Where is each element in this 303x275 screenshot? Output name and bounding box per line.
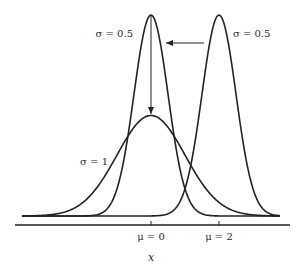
tick-label-mu0: μ = 0 — [137, 231, 165, 242]
label-sigma-1: σ = 1 — [80, 156, 108, 167]
normal-distribution-diagram: μ = 0 μ = 2 x σ = 0.5 σ = 0.5 σ = 1 — [0, 0, 303, 275]
tick-label-mu2: μ = 2 — [205, 231, 233, 242]
label-sigma-0.5-right: σ = 0.5 — [233, 28, 270, 39]
label-sigma-0.5-left: σ = 0.5 — [96, 28, 133, 39]
axis-label-x: x — [148, 251, 155, 264]
